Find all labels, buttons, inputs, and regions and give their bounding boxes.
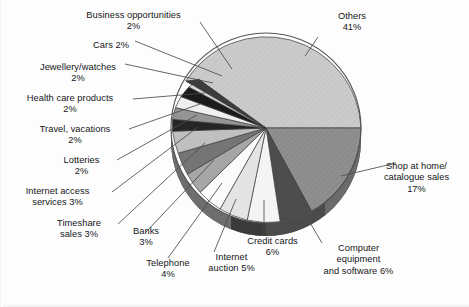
label-travel-vacations: Travel, vacations 2% — [25, 124, 125, 147]
label-internet-access-services: Internet access services 3% — [7, 186, 108, 209]
chart-canvas: Business opportunities 2% Cars 2% Jewell… — [0, 0, 469, 307]
label-business-opportunities: Business opportunities 2% — [60, 10, 207, 33]
page-left-edge — [0, 0, 3, 307]
label-lotteries: Lotteries 2% — [50, 155, 113, 178]
label-health-care-products: Health care products 2% — [11, 93, 129, 116]
label-cars: Cars 2% — [30, 40, 129, 51]
label-banks: Banks 3% — [124, 226, 168, 249]
label-timeshare-sales: Timeshare sales 3% — [45, 218, 113, 241]
label-shop-at-home: Shop at home/ catalogue sales 17% — [368, 161, 465, 195]
label-computer-equipment: Computer equipment and software 6% — [297, 243, 420, 277]
page-bottom-edge — [0, 303, 469, 307]
label-others: Others 41% — [320, 11, 384, 34]
label-jewellery-watches: Jewellery/watches 2% — [30, 62, 126, 85]
pie-slices — [172, 37, 361, 223]
